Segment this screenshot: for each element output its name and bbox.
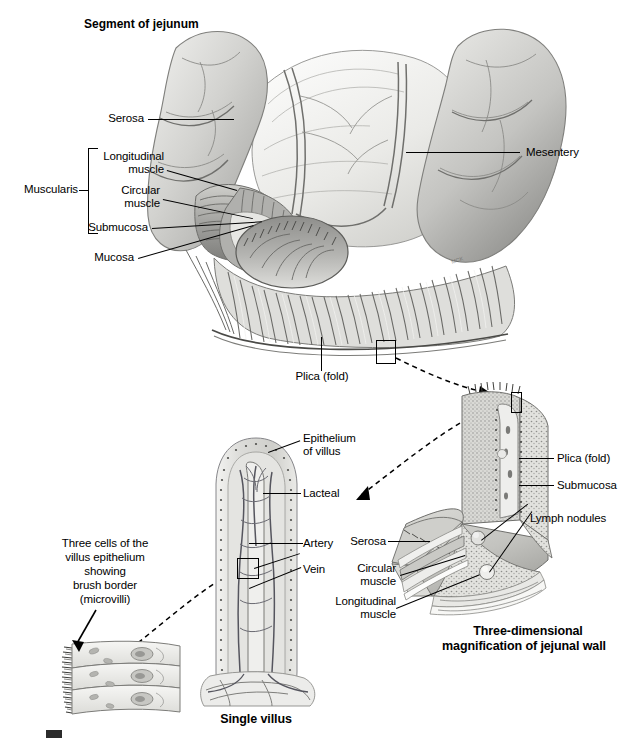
- callout-dashed-top: [396, 358, 486, 392]
- label-mesentery: Mesentery: [526, 146, 579, 159]
- leader-plica-wall: [519, 458, 554, 459]
- label-plica-fold-wall: Plica (fold): [557, 452, 610, 465]
- leader-submucosa-wall: [519, 485, 554, 486]
- leader-lacteal: [263, 493, 301, 494]
- label-circular-muscle-wall: Circular muscle: [320, 562, 396, 588]
- leader-mesentery: [406, 152, 520, 153]
- box-marker-wall-block: [511, 392, 522, 413]
- label-artery: Artery: [303, 537, 333, 550]
- leader-plica-top: [321, 337, 322, 371]
- caption-single-villus: Single villus: [196, 712, 316, 727]
- label-longitudinal-muscle-wall: Longitudinal muscle: [312, 595, 396, 621]
- label-serosa: Serosa: [44, 112, 144, 125]
- jejunal-wall-block-art: [392, 382, 552, 615]
- figure-canvas: MCK: [0, 0, 628, 743]
- leader-artery: [249, 543, 303, 544]
- leader-serosa: [148, 119, 234, 120]
- label-serosa-wall: Serosa: [330, 535, 386, 548]
- box-marker-top-panel: [376, 340, 396, 364]
- caption-three-dimensional-line1: Three-dimensional: [432, 624, 624, 639]
- leader-serosa-wall: [388, 541, 430, 542]
- leader-microvilli: [76, 610, 96, 645]
- label-longitudinal-muscle: Longitudinal muscle: [38, 150, 164, 176]
- label-lacteal: Lacteal: [303, 487, 339, 500]
- label-submucosa-top: Submucosa: [42, 221, 148, 234]
- label-circular-muscle: Circular muscle: [48, 184, 160, 210]
- label-submucosa-wall: Submucosa: [557, 479, 617, 492]
- scale-chip: [46, 730, 62, 738]
- jejunum-segment-art: MCK: [148, 29, 566, 355]
- label-plica-fold-top: Plica (fold): [262, 370, 382, 383]
- label-epithelium-of-villus: Epithelium of villus: [303, 432, 356, 458]
- epithelial-cells-art: [62, 641, 180, 714]
- page-title: Segment of jejunum: [84, 18, 199, 31]
- caption-three-dimensional-line2: magnification of jejunal wall: [420, 639, 628, 654]
- label-lymph-nodules: Lymph nodules: [530, 512, 606, 525]
- label-mucosa: Mucosa: [46, 251, 134, 264]
- note-microvilli: Three cells of the villus epithelium sho…: [20, 536, 190, 606]
